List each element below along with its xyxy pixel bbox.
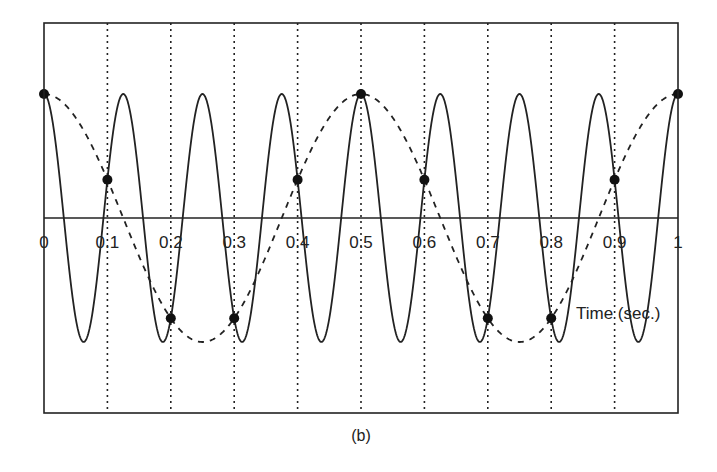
sample-point	[356, 89, 366, 99]
x-tick-label: 0.7	[476, 233, 500, 252]
x-tick-label: 0.2	[159, 233, 183, 252]
x-tick-label: 0.1	[96, 233, 120, 252]
sample-point	[229, 313, 239, 323]
sample-point	[166, 313, 176, 323]
sample-point	[546, 313, 556, 323]
aliasing-chart: 00.10.20.30.40.50.60.70.80.91 Time (sec.…	[0, 0, 717, 472]
x-axis-label: Time (sec.)	[576, 304, 660, 323]
x-tick-label: 0.9	[603, 233, 627, 252]
x-tick-label: 0.3	[222, 233, 246, 252]
sample-point	[483, 313, 493, 323]
x-tick-label: 1	[673, 233, 682, 252]
x-tick-label: 0	[39, 233, 48, 252]
figure-caption: (b)	[351, 427, 371, 444]
sample-point	[102, 175, 112, 185]
sample-point	[419, 175, 429, 185]
x-tick-label: 0.8	[539, 233, 563, 252]
sample-point	[293, 175, 303, 185]
x-tick-label: 0.6	[413, 233, 437, 252]
x-tick-label: 0.5	[349, 233, 373, 252]
x-tick-label: 0.4	[286, 233, 310, 252]
sample-point	[610, 175, 620, 185]
